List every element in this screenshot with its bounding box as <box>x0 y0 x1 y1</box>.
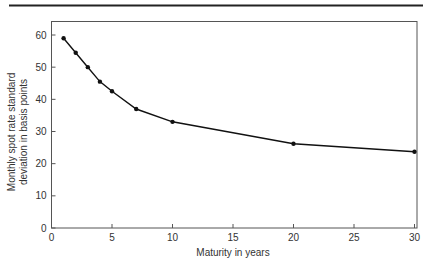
data-point <box>61 36 65 40</box>
x-tick-label: 10 <box>167 232 179 243</box>
data-point <box>74 50 78 54</box>
y-tick-label: 30 <box>35 126 47 137</box>
data-line <box>64 38 415 152</box>
y-tick-label: 40 <box>35 94 47 105</box>
x-tick-label: 25 <box>348 232 360 243</box>
y-tick-label: 60 <box>35 30 47 41</box>
x-tick-label: 20 <box>288 232 300 243</box>
x-tick-label: 30 <box>409 232 421 243</box>
data-point <box>412 150 416 154</box>
x-tick-label: 0 <box>49 232 55 243</box>
x-axis: 051015202530 <box>49 224 421 243</box>
y-axis-label-line1: Monthly spot rate standard <box>6 73 17 191</box>
y-tick-label: 50 <box>35 62 47 73</box>
plot-frame <box>52 22 418 229</box>
data-point <box>134 107 138 111</box>
data-point <box>110 89 114 93</box>
y-tick-label: 10 <box>35 190 47 201</box>
y-axis-label-line2: deviation in basis points <box>18 79 29 185</box>
data-point <box>86 65 90 69</box>
chart-svg: 0102030405060 051015202530 Monthly spot … <box>0 0 429 261</box>
y-tick-label: 20 <box>35 158 47 169</box>
y-axis: 0102030405060 <box>35 30 55 234</box>
y-tick-label: 0 <box>41 223 47 234</box>
data-point <box>291 142 295 146</box>
data-markers <box>61 36 416 154</box>
x-axis-label: Maturity in years <box>196 247 269 258</box>
data-point <box>170 120 174 124</box>
x-tick-label: 5 <box>109 232 115 243</box>
x-tick-label: 15 <box>227 232 239 243</box>
data-point <box>98 79 102 83</box>
chart-container: 0102030405060 051015202530 Monthly spot … <box>0 0 429 261</box>
